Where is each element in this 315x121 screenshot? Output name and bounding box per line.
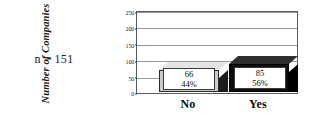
sample-size-annotation: n = 151	[18, 52, 90, 67]
gridline-250	[137, 12, 297, 13]
ytick-label-200: 200	[126, 26, 134, 32]
bar-no-side-face	[219, 70, 228, 92]
data-label-no: 66 44%	[163, 68, 215, 90]
plot-area: 250 200 150 100 50 0 66 44% 85 56%	[136, 11, 298, 94]
ytick-label-100: 100	[126, 59, 134, 65]
data-label-yes-percent: 56%	[235, 79, 285, 89]
ytick-mark-0	[135, 94, 137, 95]
ytick-mark-50	[135, 78, 137, 79]
ytick-label-50: 50	[128, 76, 134, 82]
bar-yes-side-face	[289, 64, 298, 92]
chart-screenshot: n = 151 Number of Companies 250 200 150 …	[0, 0, 315, 121]
category-label-no: No	[158, 97, 218, 112]
bar-yes-top-face	[229, 56, 298, 64]
category-label-yes: Yes	[228, 97, 288, 112]
ytick-label-250: 250	[126, 10, 134, 16]
ytick-label-0: 0	[131, 91, 134, 97]
gridline-150	[137, 45, 297, 46]
gridline-200	[137, 28, 297, 29]
ytick-mark-100	[135, 61, 137, 62]
data-label-no-percent: 44%	[164, 80, 214, 90]
ytick-label-150: 150	[126, 43, 134, 49]
y-axis-title: Number of Companies	[40, 0, 51, 114]
ytick-mark-150	[135, 45, 137, 46]
ytick-mark-250	[135, 12, 137, 13]
ytick-mark-200	[135, 28, 137, 29]
data-label-yes: 85 56%	[234, 67, 286, 89]
